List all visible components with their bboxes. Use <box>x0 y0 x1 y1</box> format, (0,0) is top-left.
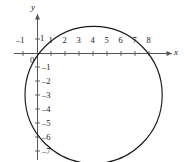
x-axis-label: x <box>174 48 178 57</box>
x-tick-label-3: 3 <box>77 36 81 45</box>
circle-graph-figure: –1 1 2 3 4 5 6 7 8 1 –1 –2 –3 –4 –5 –6 –… <box>0 0 184 162</box>
y-axis-arrowhead <box>35 14 40 20</box>
y-tick-label-neg3: –3 <box>42 91 51 100</box>
y-axis-label: y <box>31 3 35 12</box>
x-tick-label-5: 5 <box>105 36 109 45</box>
y-tick-label-neg4: –4 <box>42 105 51 114</box>
x-axis-arrowhead <box>167 51 173 56</box>
x-tick-label-neg1: –1 <box>16 36 25 45</box>
x-tick-label-7: 7 <box>133 36 137 45</box>
y-tick-label-1: 1 <box>40 34 44 43</box>
y-tick-label-neg2: –2 <box>42 77 51 86</box>
x-tick-label-8: 8 <box>147 36 151 45</box>
x-tick-label-2: 2 <box>63 36 67 45</box>
y-tick-label-neg6: –6 <box>42 133 51 142</box>
x-tick-label-1: 1 <box>49 36 53 45</box>
y-tick-label-neg7: –7 <box>42 147 51 156</box>
x-tick-label-4: 4 <box>91 36 95 45</box>
origin-label: 0 <box>30 56 34 65</box>
plot-area <box>0 0 184 162</box>
y-tick-label-neg1: –1 <box>42 63 51 72</box>
y-tick-label-neg5: –5 <box>42 119 51 128</box>
x-tick-label-6: 6 <box>119 36 123 45</box>
